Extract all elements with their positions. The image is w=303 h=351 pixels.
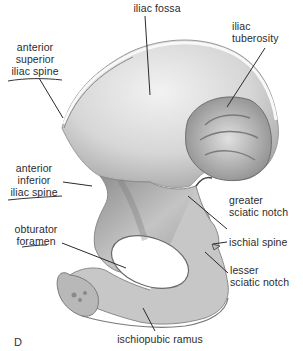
leader-ass (39, 78, 63, 118)
label-iliac-tuberosity: iliac tuberosity (232, 20, 302, 44)
label-lesser-sciatic-notch: lesser sciatic notch (230, 264, 303, 288)
label-obturator-foramen: obturator foramen (8, 223, 64, 247)
panel-letter: D (14, 336, 22, 348)
hip-bone-diagram: iliac fossa iliac tuberosity anterior su… (0, 0, 303, 351)
leader-ais (63, 182, 92, 186)
label-greater-sciatic-notch: greater sciatic notch (229, 194, 303, 218)
label-anterior-superior-iliac-spine: anterior superior iliac spine (5, 41, 65, 77)
iliac-tuberosity-region (186, 97, 272, 181)
label-anterior-inferior-iliac-spine: anterior inferior iliac spine (5, 162, 63, 198)
label-ischial-spine: ischial spine (229, 236, 303, 248)
label-iliac-fossa: iliac fossa (122, 2, 192, 14)
label-ischiopubic-ramus: ischiopubic ramus (115, 333, 205, 345)
